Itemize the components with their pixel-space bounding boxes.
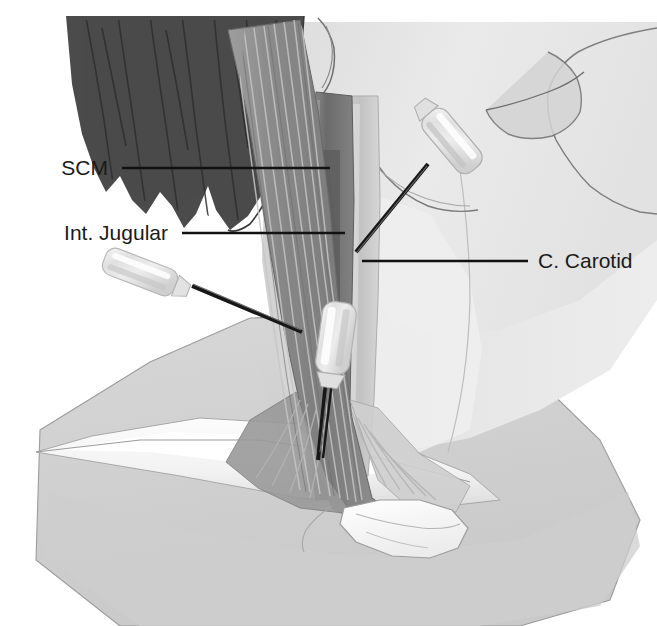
scm-label-text: SCM — [61, 156, 108, 179]
common-carotid-label-text: C. Carotid — [538, 249, 633, 272]
internal-jugular-label-text: Int. Jugular — [64, 221, 168, 244]
anatomy-figure: SCM Int. Jugular C. Carotid — [0, 0, 657, 626]
anatomy-illustration: SCM Int. Jugular C. Carotid — [0, 0, 657, 626]
